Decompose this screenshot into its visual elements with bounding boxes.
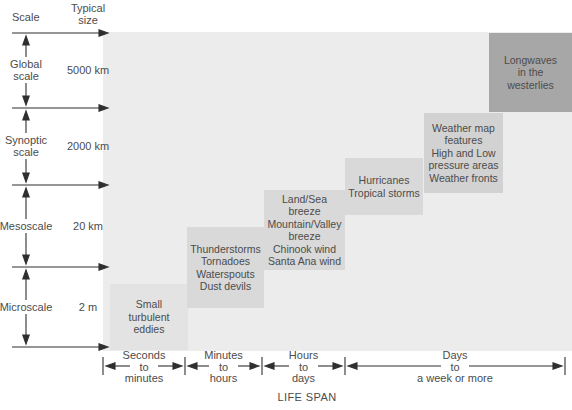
box-thunderstorms: Thunderstorms Tornadoes Waterspouts Dust…	[187, 227, 264, 308]
box-small-turbulent-eddies-text: Small turbulent eddies	[129, 298, 170, 336]
box-longwaves-text: Longwaves in the westerlies	[504, 54, 557, 92]
time-interval-seconds-to-minutes: Seconds to minutes	[103, 350, 185, 385]
time-interval-days-to-week: Days to a week or more	[345, 350, 565, 385]
scale-band-label-meso: Mesoscale	[0, 219, 54, 233]
scales-of-atmospheric-motion-diagram: Scale Typical size Global scale Synoptic…	[0, 0, 572, 410]
typical-size-header: Typical size	[64, 2, 112, 26]
scale-axis-header: Scale	[12, 11, 40, 23]
box-weather-map-features: Weather map features High and Low pressu…	[424, 113, 503, 193]
scale-band-label-micro: Microscale	[0, 300, 54, 314]
box-local-winds-text: Land/Sea breeze Mountain/Valley breeze C…	[268, 193, 342, 268]
scale-band-label-synoptic: Synoptic scale	[0, 133, 54, 159]
time-interval-hours-to-days: Hours to days	[262, 350, 345, 385]
typical-size-micro: 2 m	[64, 301, 112, 313]
box-thunderstorms-text: Thunderstorms Tornadoes Waterspouts Dust…	[190, 243, 261, 293]
box-hurricanes-text: Hurricanes Tropical storms	[348, 174, 419, 199]
typical-size-global: 5000 km	[64, 64, 112, 76]
box-weather-map-features-text: Weather map features High and Low pressu…	[428, 122, 498, 185]
box-small-turbulent-eddies: Small turbulent eddies	[110, 284, 188, 350]
typical-size-meso: 20 km	[64, 220, 112, 232]
box-longwaves: Longwaves in the westerlies	[489, 33, 572, 112]
box-hurricanes: Hurricanes Tropical storms	[345, 158, 423, 215]
life-span-axis-title: LIFE SPAN	[247, 391, 367, 403]
scale-band-label-global: Global scale	[0, 57, 54, 83]
typical-size-synoptic: 2000 km	[64, 140, 112, 152]
time-interval-minutes-to-hours: Minutes to hours	[185, 350, 262, 385]
box-local-winds: Land/Sea breeze Mountain/Valley breeze C…	[264, 190, 345, 270]
